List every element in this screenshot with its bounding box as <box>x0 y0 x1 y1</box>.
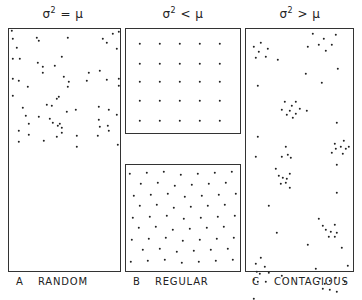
point <box>295 101 297 103</box>
point <box>336 232 338 234</box>
point <box>336 122 338 124</box>
header-random: σ2 = μ <box>8 6 118 21</box>
point <box>260 42 262 44</box>
point <box>181 262 183 264</box>
point <box>331 152 333 154</box>
point <box>38 116 40 118</box>
point <box>19 58 21 60</box>
point <box>28 134 30 136</box>
point <box>117 144 119 146</box>
point <box>56 136 58 138</box>
point <box>295 113 297 115</box>
point <box>225 182 227 184</box>
point <box>336 291 338 293</box>
panel-contagious <box>245 28 354 272</box>
point <box>331 44 333 46</box>
point <box>199 43 201 45</box>
point <box>282 177 284 179</box>
point <box>173 207 175 209</box>
point <box>235 193 237 195</box>
point <box>43 140 45 142</box>
point <box>286 178 288 180</box>
point <box>159 81 161 83</box>
point <box>307 46 309 48</box>
point <box>286 114 288 116</box>
point <box>108 130 110 132</box>
point <box>156 204 158 206</box>
point <box>108 109 110 111</box>
point <box>275 168 277 170</box>
point <box>328 236 330 238</box>
point <box>163 171 165 173</box>
point <box>11 30 13 32</box>
point <box>276 232 278 234</box>
point <box>132 217 134 219</box>
point <box>139 120 141 122</box>
point <box>227 248 229 250</box>
point <box>12 38 14 40</box>
point <box>210 249 212 251</box>
point <box>140 183 142 185</box>
point <box>139 205 141 207</box>
caption-regular: BREGULAR <box>133 276 209 287</box>
point <box>76 135 78 137</box>
point <box>179 43 181 45</box>
point <box>157 182 159 184</box>
relation: < μ <box>176 7 203 21</box>
point <box>219 81 221 83</box>
point <box>233 237 235 239</box>
point <box>199 63 201 65</box>
point <box>150 194 152 196</box>
point <box>343 140 345 142</box>
point <box>118 31 120 33</box>
point <box>56 98 58 100</box>
point <box>305 73 307 75</box>
point <box>98 106 100 108</box>
point <box>193 250 195 252</box>
point <box>159 248 161 250</box>
point <box>258 51 260 53</box>
point <box>197 173 199 175</box>
point <box>12 95 14 97</box>
point <box>98 119 100 121</box>
point <box>208 183 210 185</box>
point <box>219 100 221 102</box>
point <box>184 196 186 198</box>
point <box>183 218 185 220</box>
point <box>66 111 68 113</box>
point <box>148 238 150 240</box>
point <box>219 63 221 65</box>
point <box>199 120 201 122</box>
point <box>118 78 120 80</box>
caption-contagious: CCONTAGIOUS <box>252 276 349 287</box>
point <box>46 104 48 106</box>
caption-label: CONTAGIOUS <box>274 276 349 287</box>
point <box>52 122 54 124</box>
point <box>182 240 184 242</box>
point <box>336 192 338 194</box>
point <box>264 266 266 268</box>
caption-random: ARANDOM <box>16 276 88 287</box>
point <box>287 154 289 156</box>
point <box>259 273 261 275</box>
point <box>99 70 101 72</box>
point <box>214 172 216 174</box>
point <box>118 85 120 87</box>
point <box>112 33 114 35</box>
point <box>325 229 327 231</box>
point <box>146 172 148 174</box>
point <box>172 229 174 231</box>
point <box>257 136 259 138</box>
point <box>291 105 293 107</box>
point <box>322 225 324 227</box>
point <box>67 86 69 88</box>
point <box>255 57 257 59</box>
point <box>223 226 225 228</box>
point <box>265 56 267 58</box>
point <box>323 38 325 40</box>
point <box>340 146 342 148</box>
point <box>334 224 336 226</box>
point <box>232 259 234 261</box>
panel-regular-grid <box>125 28 241 134</box>
point <box>159 43 161 45</box>
